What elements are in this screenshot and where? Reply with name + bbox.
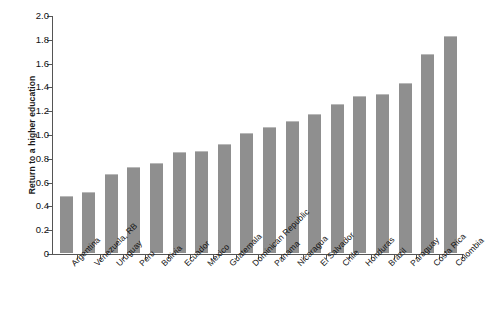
y-tick-label: 0.4 <box>36 200 49 211</box>
y-tick-label: 1.6 <box>36 58 49 69</box>
y-tick-label: 2.0 <box>36 10 49 21</box>
bar <box>195 151 208 253</box>
bar <box>376 94 389 253</box>
y-tick-label: 1.8 <box>36 34 49 45</box>
y-tick-label: 0.6 <box>36 177 49 188</box>
bar <box>308 114 321 253</box>
bar <box>218 144 231 253</box>
bar <box>331 104 344 253</box>
bar <box>173 152 186 253</box>
y-tick-label: 1.4 <box>36 81 49 92</box>
x-axis-labels: ArgentinaVenezuela, RBUruguayPeruBolivia… <box>52 16 463 96</box>
bar <box>263 127 276 253</box>
bar <box>353 96 366 253</box>
y-tick-label: 0.2 <box>36 224 49 235</box>
y-tick-label: 1.2 <box>36 105 49 116</box>
y-tick-label: 0.8 <box>36 153 49 164</box>
y-tick-label: 0 <box>44 248 49 259</box>
y-tick-label: 1.0 <box>36 129 49 140</box>
bar <box>150 163 163 253</box>
bar <box>60 196 73 253</box>
bar <box>399 83 412 253</box>
